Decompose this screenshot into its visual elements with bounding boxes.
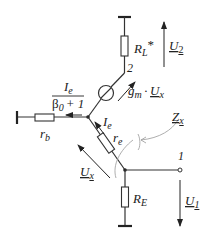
label-ie-frac-num: Ie [63,79,73,96]
resistor-re-big [122,187,129,207]
terminal-1 [178,168,182,172]
label-node-1: 1 [178,149,184,163]
label-ux: Ux [80,164,94,181]
label-u2: U2 [169,38,183,55]
label-u1: U1 [185,193,199,210]
resistor-rb [35,114,54,121]
label-re-big: RE [132,191,147,208]
label-node-2: 2 [127,61,133,75]
circuit-diagram: RL* U2 2 gm·Ux Ie β0+ 1 rb Ie re Zx Ux 1… [0,0,210,241]
label-gm-ux: gm·Ux [128,83,164,100]
label-re: re [113,130,123,147]
label-zx: Zx [172,109,184,126]
label-ie: Ie [102,114,112,131]
label-ie-frac-den: β0+ 1 [52,96,84,113]
label-rb: rb [40,126,50,143]
resistor-rl [121,36,128,56]
current-source-icon [99,86,114,101]
label-rl: RL* [133,37,154,58]
